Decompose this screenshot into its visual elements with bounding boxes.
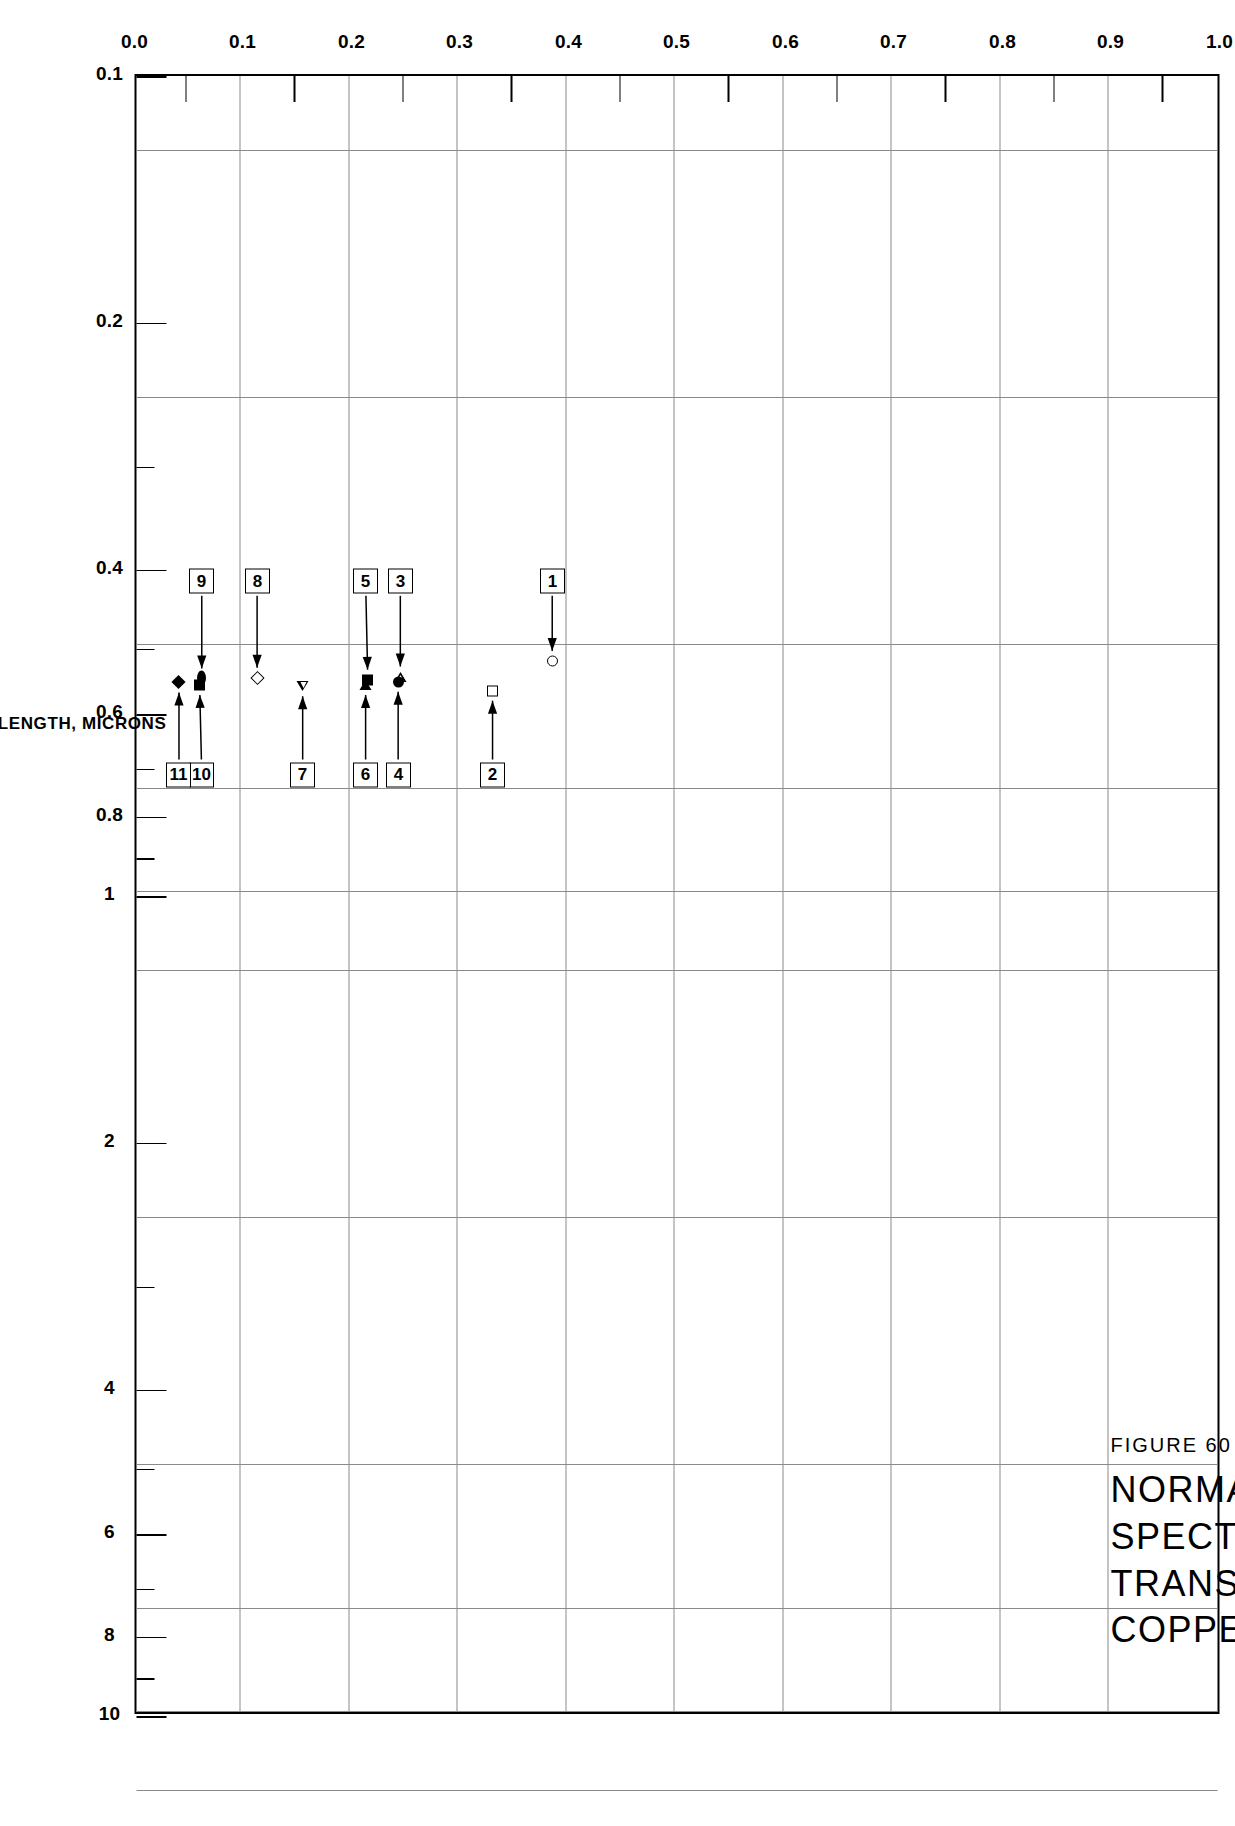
y-tick-label: 0.3 bbox=[446, 31, 473, 53]
callout-8: 8 bbox=[244, 568, 269, 593]
x-tick-minor bbox=[136, 1287, 154, 1288]
y-gridline bbox=[999, 76, 1000, 1712]
callout-label: 1 bbox=[547, 572, 556, 589]
y-tick-minor bbox=[727, 76, 729, 102]
x-tick-major bbox=[136, 1143, 166, 1145]
data-marker-6 bbox=[359, 680, 371, 690]
callout-label: 6 bbox=[360, 766, 369, 783]
x-tick-label: 8 bbox=[104, 1624, 115, 1646]
x-gridline bbox=[136, 891, 1217, 892]
x-tick-minor bbox=[136, 769, 154, 770]
y-tick-label: 0.5 bbox=[663, 31, 690, 53]
data-marker-4 bbox=[392, 676, 403, 687]
y-tick-label: 0.4 bbox=[554, 31, 581, 53]
data-marker-2 bbox=[487, 685, 498, 696]
x-tick-label: 0.8 bbox=[95, 804, 122, 826]
y-tick-label: 1.0 bbox=[1205, 31, 1232, 53]
x-tick-label: 4 bbox=[104, 1377, 115, 1399]
callout-7: 7 bbox=[290, 762, 315, 787]
x-tick-major bbox=[136, 1637, 166, 1639]
callout-label: 10 bbox=[192, 766, 211, 783]
title-line-4: COPPER bbox=[1111, 1607, 1235, 1654]
x-gridline bbox=[136, 1464, 1217, 1465]
x-tick-major bbox=[136, 1390, 166, 1392]
y-tick-minor bbox=[619, 76, 621, 102]
y-tick-label: 0.1 bbox=[229, 31, 256, 53]
y-tick-minor bbox=[1161, 76, 1163, 102]
x-axis-title: WAVELENGTH, MICRONS bbox=[0, 714, 166, 734]
data-marker-10 bbox=[194, 679, 205, 690]
x-tick-major bbox=[136, 76, 166, 78]
y-tick-minor bbox=[293, 76, 295, 102]
callout-6: 6 bbox=[353, 762, 378, 787]
y-gridline bbox=[348, 76, 349, 1712]
x-tick-minor bbox=[136, 1589, 154, 1590]
callout-label: 5 bbox=[360, 572, 369, 589]
y-tick-minor bbox=[944, 76, 946, 102]
title-line-3: TRANSMITTANCE OF bbox=[1111, 1560, 1235, 1607]
x-tick-major bbox=[136, 1716, 166, 1718]
x-tick-label: 6 bbox=[104, 1521, 115, 1543]
data-marker-1 bbox=[546, 656, 557, 667]
x-gridline bbox=[136, 1608, 1217, 1609]
callout-label: 7 bbox=[297, 766, 306, 783]
y-tick-minor bbox=[185, 76, 187, 102]
x-tick-label: 0.4 bbox=[95, 557, 122, 579]
x-tick-minor bbox=[136, 467, 154, 468]
x-gridline bbox=[136, 150, 1217, 151]
callout-2: 2 bbox=[480, 762, 505, 787]
title-line-1: NORMAL bbox=[1111, 1467, 1235, 1514]
x-gridline bbox=[136, 1711, 1217, 1712]
callout-1: 1 bbox=[539, 568, 564, 593]
figure-number: FIGURE 60 bbox=[1111, 1434, 1235, 1457]
x-gridline bbox=[136, 397, 1217, 398]
y-gridline bbox=[457, 76, 458, 1712]
y-gridline bbox=[565, 76, 566, 1712]
callout-label: 3 bbox=[395, 572, 404, 589]
x-tick-minor bbox=[136, 649, 154, 650]
x-tick-label: 0.6 bbox=[95, 701, 122, 723]
y-gridline bbox=[674, 76, 675, 1712]
x-tick-minor bbox=[136, 858, 154, 859]
x-tick-minor bbox=[136, 1678, 154, 1679]
callout-11: 11 bbox=[166, 762, 191, 787]
callout-label: 4 bbox=[393, 766, 402, 783]
x-gridline bbox=[136, 644, 1217, 645]
x-tick-major bbox=[136, 817, 166, 819]
y-tick-label: 0.6 bbox=[771, 31, 798, 53]
data-marker-7 bbox=[296, 681, 308, 691]
y-gridline bbox=[1108, 76, 1109, 1712]
figure-stage: FIGURE 60 NORMAL SPECTRAL TRANSMITTANCE … bbox=[0, 0, 1235, 1826]
x-tick-major bbox=[136, 896, 166, 898]
y-tick-label: 0.0 bbox=[120, 31, 147, 53]
plot-area bbox=[134, 74, 1219, 1714]
x-gridline bbox=[136, 1217, 1217, 1218]
x-tick-label: 0.2 bbox=[95, 310, 122, 332]
y-tick-label: 0.9 bbox=[1097, 31, 1124, 53]
x-tick-major bbox=[136, 1534, 166, 1536]
x-gridline bbox=[136, 970, 1217, 971]
x-tick-major bbox=[136, 323, 166, 325]
x-gridline bbox=[136, 1790, 1217, 1791]
callout-label: 9 bbox=[197, 572, 206, 589]
callout-label: 8 bbox=[252, 572, 261, 589]
x-tick-label: 2 bbox=[104, 1130, 115, 1152]
callout-label: 11 bbox=[170, 766, 188, 783]
x-gridline bbox=[136, 788, 1217, 789]
x-tick-label: 1 bbox=[104, 883, 115, 905]
y-tick-label: 0.2 bbox=[337, 31, 364, 53]
y-tick-minor bbox=[1053, 76, 1055, 102]
figure-title-block: FIGURE 60 NORMAL SPECTRAL TRANSMITTANCE … bbox=[1111, 1434, 1235, 1654]
y-tick-minor bbox=[836, 76, 838, 102]
y-gridline bbox=[240, 76, 241, 1712]
callout-label: 2 bbox=[487, 766, 496, 783]
y-gridline bbox=[891, 76, 892, 1712]
x-tick-minor bbox=[136, 1469, 154, 1470]
y-tick-label: 0.7 bbox=[880, 31, 907, 53]
y-tick-minor bbox=[510, 76, 512, 102]
callout-3: 3 bbox=[387, 568, 412, 593]
title-line-2: SPECTRAL bbox=[1111, 1513, 1235, 1560]
x-tick-major bbox=[136, 570, 166, 572]
x-tick-label: 10 bbox=[98, 1703, 120, 1725]
callout-4: 4 bbox=[385, 762, 410, 787]
